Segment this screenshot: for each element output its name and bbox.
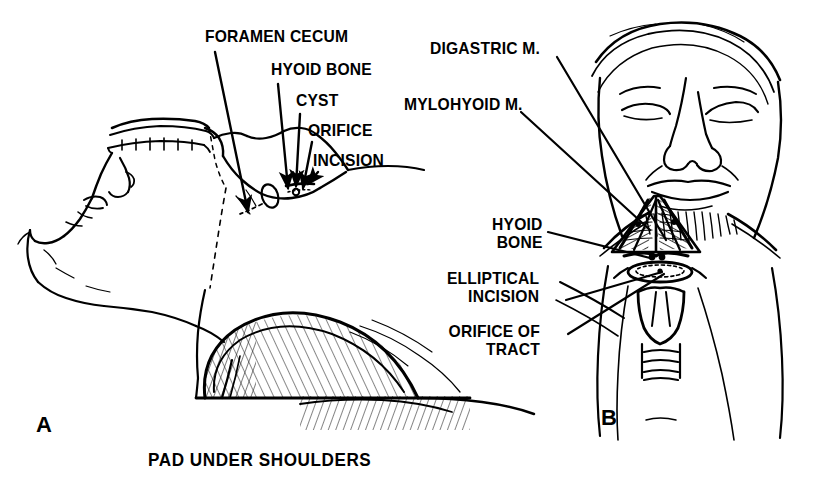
nostril-left — [664, 146, 688, 170]
marker-dot-right — [671, 219, 677, 225]
leader-foramen-cecum — [215, 52, 248, 212]
eye-right — [706, 102, 758, 114]
thyroid-cartilage — [638, 292, 684, 344]
nose-outline — [120, 158, 130, 192]
medical-illustration-figure: FORAMEN CECUM HYOID BONE CYST ORIFICE IN… — [0, 0, 816, 489]
leader-digastric-m — [557, 57, 666, 240]
label-cyst: CYST — [296, 92, 338, 110]
label-hyoid-bone-b: HYOID BONE — [480, 216, 543, 253]
label-incision: INCISION — [313, 152, 384, 170]
panel-letter-b: B — [601, 405, 617, 431]
face-right-contour — [754, 82, 781, 238]
label-mylohyoid-m: MYLOHYOID M. — [404, 96, 523, 114]
leader-incision — [308, 172, 318, 184]
neck-right-contour — [772, 268, 783, 438]
label-foramen-cecum: FORAMEN CECUM — [205, 28, 348, 46]
nose-bridge — [670, 78, 686, 146]
teeth-and-lip — [108, 119, 214, 153]
face-left-contour — [598, 78, 622, 236]
eye-outline — [84, 196, 107, 205]
tracheal-rings — [642, 344, 680, 380]
leader-mylohyoid-m — [521, 112, 650, 230]
leader-elliptical-incision — [566, 272, 662, 300]
panel-b-drawing — [556, 23, 783, 441]
label-elliptical-incision: ELLIPTICAL INCISION — [437, 270, 539, 307]
panel-letter-a: A — [36, 412, 52, 438]
leader-hyoid-bone — [278, 84, 288, 188]
nostril-right — [697, 148, 721, 171]
leader-orifice-of-tract — [568, 274, 664, 334]
neck-front-line — [210, 188, 226, 288]
panel-b-leaders — [521, 57, 666, 334]
label-orifice-of-tract: ORIFICE OF TRACT — [447, 323, 540, 360]
label-hyoid-bone: HYOID BONE — [271, 61, 372, 79]
illustration-linework — [0, 0, 816, 489]
wound-edge-right — [728, 214, 776, 250]
incision-line — [286, 183, 314, 186]
tract-dotted-line — [240, 204, 262, 214]
leader-cyst — [296, 114, 300, 186]
label-orifice: ORIFICE — [308, 122, 373, 140]
chest-front-line — [197, 290, 205, 378]
eye-left — [622, 104, 670, 114]
caption-pad-under-shoulders: PAD UNDER SHOULDERS — [148, 450, 371, 471]
upper-lip — [648, 181, 730, 186]
label-digastric-m: DIGASTRIC M. — [430, 40, 540, 58]
